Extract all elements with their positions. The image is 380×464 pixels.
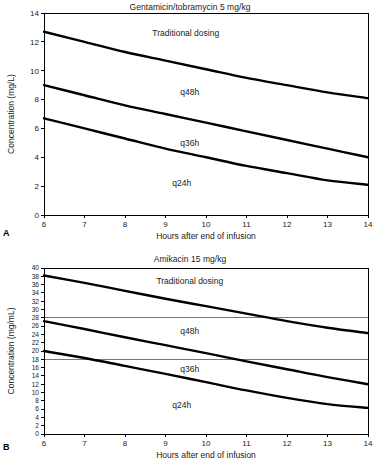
y-tick-label: 2 [35, 182, 40, 191]
y-tick-label: 40 [32, 264, 40, 271]
curve-annotation-q48h: q48h [180, 326, 199, 336]
x-tick-label: 9 [163, 220, 168, 229]
y-tick-label: 0 [35, 211, 40, 220]
x-tick-label: 13 [323, 220, 332, 229]
x-tick-label: 6 [42, 220, 47, 229]
curve-q48h [44, 321, 368, 384]
y-tick-label: 30 [32, 306, 40, 313]
panel-b-plot: 0246810121416182022242628303234363840678… [0, 250, 380, 464]
curve-annotation-q36h: q36h [180, 138, 199, 148]
y-tick-label: 14 [30, 9, 39, 18]
y-tick-label: 38 [32, 273, 40, 280]
curve-annotation-q48h: q48h [180, 87, 199, 97]
y-tick-label: 8 [35, 397, 39, 404]
y-tick-label: 14 [32, 372, 40, 379]
y-tick-label: 32 [32, 298, 40, 305]
y-tick-label: 10 [30, 67, 39, 76]
x-tick-label: 8 [123, 439, 128, 448]
x-tick-label: 14 [364, 439, 373, 448]
y-tick-label: 24 [32, 331, 40, 338]
y-tick-label: 6 [35, 124, 40, 133]
x-axis-title: Hours after end of infusion [156, 450, 256, 460]
x-tick-label: 8 [123, 220, 128, 229]
panel-a: Gentamicin/tobramycin 5 mg/kg A 02468101… [0, 0, 380, 250]
y-tick-label: 4 [35, 153, 40, 162]
x-tick-label: 13 [323, 439, 332, 448]
x-tick-label: 12 [283, 220, 292, 229]
y-tick-label: 36 [32, 281, 40, 288]
curve-annotation-q36h: q36h [180, 364, 199, 374]
y-tick-label: 4 [35, 414, 39, 421]
x-axis-title: Hours after end of infusion [156, 231, 256, 241]
y-tick-label: 26 [32, 322, 40, 329]
curve-annotation-q24h: q24h [172, 400, 191, 410]
plot-frame [44, 268, 368, 434]
y-tick-label: 18 [32, 356, 40, 363]
x-tick-label: 9 [163, 439, 168, 448]
curve-q24h [44, 118, 368, 184]
figure-aminoglycoside-concentrations: Gentamicin/tobramycin 5 mg/kg A 02468101… [0, 0, 380, 464]
curve-annotation-traditional-dosing: Traditional dosing [152, 28, 219, 38]
y-axis-title: Concentration (mg/mL) [6, 307, 16, 394]
curve-annotation-traditional-dosing: Traditional dosing [156, 276, 223, 286]
y-tick-label: 20 [32, 347, 40, 354]
y-tick-label: 16 [32, 364, 40, 371]
x-tick-label: 10 [202, 439, 211, 448]
y-tick-label: 0 [35, 430, 39, 437]
y-tick-label: 6 [35, 405, 39, 412]
x-tick-label: 11 [242, 220, 251, 229]
curve-annotation-q24h: q24h [172, 178, 191, 188]
x-tick-label: 7 [82, 439, 87, 448]
y-tick-label: 28 [32, 314, 40, 321]
x-tick-label: 6 [42, 439, 47, 448]
y-tick-label: 8 [35, 95, 40, 104]
y-tick-label: 10 [32, 389, 40, 396]
curve-q48h [44, 85, 368, 157]
y-tick-label: 12 [30, 38, 39, 47]
x-tick-label: 7 [82, 220, 87, 229]
x-tick-label: 11 [242, 439, 251, 448]
y-tick-label: 22 [32, 339, 40, 346]
panel-a-plot: 0246810121467891011121314Traditional dos… [0, 0, 380, 250]
x-tick-label: 12 [283, 439, 292, 448]
x-tick-label: 14 [364, 220, 373, 229]
curve-traditional-dosing [44, 32, 368, 98]
x-tick-label: 10 [202, 220, 211, 229]
panel-b: Amikacin 15 mg/kg B 02468101214161820222… [0, 250, 380, 464]
y-tick-label: 34 [32, 289, 40, 296]
y-tick-label: 2 [35, 422, 39, 429]
y-tick-label: 12 [32, 381, 40, 388]
y-axis-title: Concentration (mg/L) [6, 74, 16, 154]
